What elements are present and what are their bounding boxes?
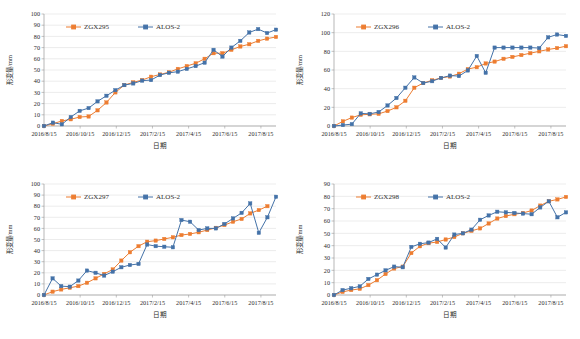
data-point-marker — [265, 37, 268, 40]
y-tick-label: 50 — [34, 236, 40, 243]
y-tick-label: 90 — [34, 191, 40, 198]
data-point-marker — [457, 74, 460, 77]
y-tick-label: 60 — [34, 225, 40, 232]
series-ALOS-2 — [42, 27, 277, 127]
data-point-marker — [530, 209, 533, 212]
data-point-marker — [128, 263, 131, 266]
data-point-marker — [96, 109, 99, 112]
data-point-marker — [546, 48, 549, 51]
x-tick-label: 2016/12/15 — [102, 299, 130, 306]
data-point-marker — [493, 60, 496, 63]
data-point-marker — [87, 115, 90, 118]
data-point-marker — [145, 243, 148, 246]
data-point-marker — [239, 39, 242, 42]
series-ALOS-2 — [42, 195, 277, 297]
data-point-marker — [180, 233, 183, 236]
data-point-marker — [223, 222, 226, 225]
data-point-marker — [78, 109, 81, 112]
x-tick-label: 2016/12/15 — [102, 130, 130, 137]
legend: ZGX297ALOS-2 — [66, 193, 181, 201]
data-point-marker — [180, 218, 183, 221]
legend-swatch-marker — [144, 25, 148, 29]
y-axis-title: 形变量/mm — [5, 225, 14, 255]
data-point-marker — [59, 288, 62, 291]
data-point-marker — [341, 120, 344, 123]
y-tick-label: 80 — [34, 202, 40, 209]
data-point-marker — [42, 124, 45, 127]
x-tick-label: 2016/10/15 — [356, 299, 384, 306]
x-tick-label: 2017/2/15 — [430, 130, 455, 137]
data-point-marker — [530, 213, 533, 216]
y-tick-label: 0 — [327, 291, 330, 298]
data-point-marker — [154, 244, 157, 247]
x-axis-title: 日期 — [443, 311, 457, 319]
data-point-marker — [77, 279, 80, 282]
data-point-marker — [120, 259, 123, 262]
data-point-marker — [257, 208, 260, 211]
data-point-marker — [547, 200, 550, 203]
data-point-marker — [386, 109, 389, 112]
x-tick-label: 2017/4/15 — [466, 130, 491, 137]
data-point-marker — [42, 293, 45, 296]
data-point-marker — [375, 279, 378, 282]
data-point-marker — [511, 46, 514, 49]
y-axis-title: 形变量/mm — [295, 55, 304, 85]
data-point-marker — [555, 46, 558, 49]
data-point-marker — [332, 124, 335, 127]
data-point-marker — [520, 53, 523, 56]
data-point-marker — [368, 112, 371, 115]
data-point-marker — [78, 115, 81, 118]
data-point-marker — [487, 222, 490, 225]
data-point-marker — [453, 233, 456, 236]
data-point-marker — [502, 57, 505, 60]
data-point-marker — [256, 39, 259, 42]
data-point-marker — [404, 86, 407, 89]
data-point-marker — [520, 46, 523, 49]
data-point-marker — [212, 48, 215, 51]
y-tick-label: 30 — [34, 89, 40, 96]
data-point-marker — [478, 227, 481, 230]
y-tick-label: 120 — [321, 10, 330, 17]
data-point-marker — [248, 31, 251, 34]
x-tick-label: 2017/6/15 — [502, 299, 527, 306]
data-point-marker — [256, 27, 259, 30]
data-point-marker — [546, 36, 549, 39]
y-tick-label: 70 — [34, 214, 40, 221]
data-point-marker — [359, 112, 362, 115]
data-point-marker — [203, 57, 206, 60]
data-point-marker — [504, 214, 507, 217]
gridlines: 0102030405060708090100 — [31, 180, 276, 298]
data-point-marker — [102, 274, 105, 277]
data-point-marker — [60, 119, 63, 122]
data-point-marker — [128, 251, 131, 254]
data-point-marker — [539, 206, 542, 209]
data-point-marker — [367, 283, 370, 286]
data-point-marker — [341, 123, 344, 126]
data-point-marker — [367, 277, 370, 280]
y-axis-title: 形变量/mm — [5, 55, 14, 85]
x-axis-title: 日期 — [153, 311, 167, 319]
y-tick-label: 70 — [34, 44, 40, 51]
legend-label: ZGX295 — [84, 23, 109, 31]
data-point-marker — [188, 220, 191, 223]
data-point-marker — [185, 67, 188, 70]
x-tick-label: 2017/2/15 — [140, 130, 165, 137]
y-tick-label: 20 — [34, 269, 40, 276]
data-point-marker — [69, 115, 72, 118]
data-point-marker — [496, 210, 499, 213]
chart-panel-top-left: 01020304050607080901002016/8/152016/10/1… — [0, 0, 290, 170]
data-point-marker — [439, 76, 442, 79]
legend-label: ALOS-2 — [446, 23, 471, 31]
data-point-marker — [137, 262, 140, 265]
data-point-marker — [504, 211, 507, 214]
data-point-marker — [68, 285, 71, 288]
legend-swatch-marker — [144, 195, 148, 199]
x-tick-label: 2017/8/15 — [248, 299, 273, 306]
data-point-marker — [427, 241, 430, 244]
data-point-marker — [214, 227, 217, 230]
x-tick-label: 2016/10/15 — [356, 130, 384, 137]
x-tick-label: 2017/6/15 — [502, 130, 527, 137]
data-point-marker — [171, 246, 174, 249]
legend: ZGX295ALOS-2 — [66, 23, 181, 31]
data-point-marker — [475, 54, 478, 57]
